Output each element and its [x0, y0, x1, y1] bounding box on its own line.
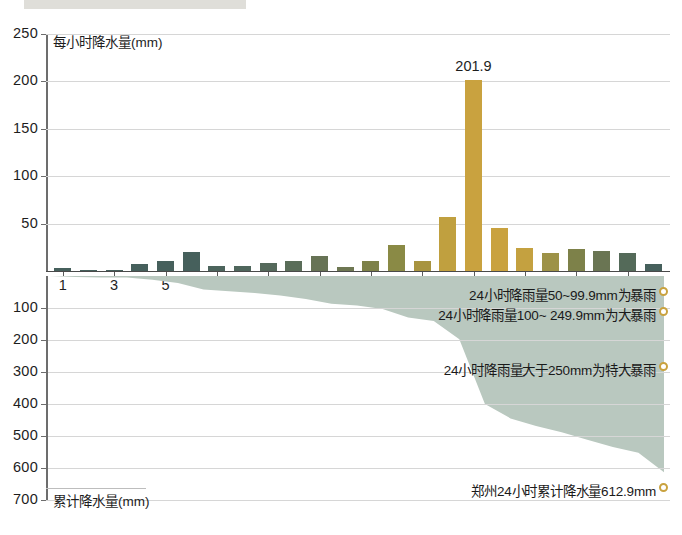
hourly-bar [131, 264, 148, 271]
cumulative-gridline [46, 340, 670, 341]
hourly-bar [337, 267, 354, 271]
hourly-bar [311, 256, 328, 271]
hourly-bar [106, 270, 123, 272]
hourly-bar [593, 251, 610, 271]
hourly-bar [465, 80, 482, 271]
hourly-plot-area: 50100150200250201.91357911131517192123 [0, 22, 682, 272]
hourly-y-tick-label: 150 [0, 120, 38, 136]
hourly-bar [208, 266, 225, 271]
hourly-bar [439, 217, 456, 271]
hourly-bar [568, 249, 585, 271]
hourly-y-tick-mark [41, 176, 46, 177]
hourly-bar [619, 253, 636, 271]
cumulative-gridline [46, 404, 670, 405]
cumulative-y-axis [46, 276, 48, 500]
hourly-y-axis-title: 每小时降水量(mm) [53, 31, 162, 51]
hourly-bar [80, 270, 97, 272]
cumulative-gridline [46, 468, 670, 469]
cumulative-precipitation-chart: 10020030040050060070024小时降雨量50~99.9mm为暴雨… [0, 272, 682, 535]
hourly-bar [157, 261, 174, 271]
cumulative-y-tick-label: 400 [0, 395, 38, 411]
annotation-marker-extreme-rain [659, 362, 668, 371]
hourly-bar [414, 261, 431, 271]
cumulative-y-tick-label: 500 [0, 427, 38, 443]
cumulative-y-tick-mark [41, 500, 46, 501]
hourly-bar [542, 253, 559, 271]
annotation-marker-zhengzhou-total [659, 483, 668, 492]
hourly-precipitation-chart: 50100150200250201.91357911131517192123 每… [0, 22, 682, 272]
hourly-gridline [46, 81, 670, 82]
hourly-gridline [46, 176, 670, 177]
annotation-marker-heavy-rain [659, 287, 668, 296]
hourly-gridline [46, 224, 670, 225]
hourly-gridline [46, 129, 670, 130]
hourly-y-tick-mark [41, 224, 46, 225]
hourly-bar [362, 261, 379, 271]
annotation-marker-very-heavy-rain [659, 307, 668, 316]
annotation-leader-line [46, 488, 146, 489]
annotation-heavy-rain: 24小时降雨量50~99.9mm为暴雨 [150, 284, 656, 304]
hourly-y-tick-label: 200 [0, 72, 38, 88]
cumulative-y-tick-label: 200 [0, 331, 38, 347]
hourly-y-axis [46, 34, 48, 272]
hourly-y-tick-label: 250 [0, 25, 38, 41]
hourly-y-tick-mark [41, 34, 46, 35]
header-strip [24, 0, 246, 9]
cumulative-gridline [46, 436, 670, 437]
hourly-y-tick-mark [41, 129, 46, 130]
hourly-bar [491, 228, 508, 271]
annotation-very-heavy-rain: 24小时降雨量100~ 249.9mm为大暴雨 [150, 304, 656, 324]
cumulative-y-tick-label: 300 [0, 363, 38, 379]
cumulative-y-axis-title: 累计降水量(mm) [53, 490, 149, 510]
cumulative-y-tick-label: 700 [0, 491, 38, 507]
cumulative-y-tick-label: 600 [0, 459, 38, 475]
hourly-bar [234, 266, 251, 271]
annotation-zhengzhou-total: 郑州24小时累计降水量612.9mm [150, 480, 656, 500]
hourly-bar [260, 263, 277, 271]
hourly-bar [645, 264, 662, 271]
hourly-bar [285, 261, 302, 271]
hourly-y-tick-mark [41, 81, 46, 82]
hourly-y-tick-label: 50 [0, 215, 38, 231]
hourly-peak-value-label: 201.9 [434, 58, 514, 74]
hourly-y-tick-label: 100 [0, 167, 38, 183]
hourly-bar [183, 252, 200, 271]
annotation-extreme-rain: 24小时降雨量大于250mm为特大暴雨 [150, 359, 656, 379]
hourly-bar [54, 268, 71, 271]
hourly-bar [388, 245, 405, 271]
cumulative-y-tick-label: 100 [0, 299, 38, 315]
hourly-bar [516, 248, 533, 271]
